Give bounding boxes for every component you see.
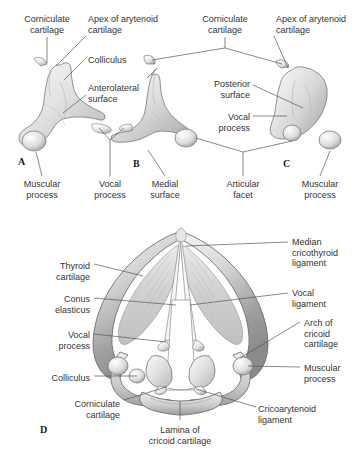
label-vocal-process-c: Vocal process xyxy=(218,112,250,133)
panel-letter-b: B xyxy=(133,158,140,169)
panel-letter-c: C xyxy=(283,158,290,169)
label-conus-elasticus-d: Conus elasticus xyxy=(55,294,90,315)
label-lamina-cricoid-d: Lamina of cricoid cartilage xyxy=(149,425,212,446)
label-vocal-process-d: Vocal process xyxy=(58,330,90,351)
label-anterolateral-surface-a: Anterolateral surface xyxy=(88,83,139,104)
label-corniculate-cartilage-a: Corniculate cartilage xyxy=(24,14,70,35)
label-muscular-process-a: Muscular process xyxy=(24,179,61,200)
label-median-cricothyroid-d: Median cricothyroid ligament xyxy=(292,237,338,269)
label-medial-surface-b: Medial surface xyxy=(150,179,180,200)
label-colliculus-a: Colliculus xyxy=(88,55,127,66)
label-corniculate-cartilage-c: Corniculate cartilage xyxy=(202,14,248,35)
panel-letter-d: D xyxy=(40,424,47,435)
anatomical-illustration xyxy=(0,0,361,453)
label-thyroid-cartilage-d: Thyroid cartilage xyxy=(56,261,90,282)
label-colliculus-d: Colliculus xyxy=(51,373,90,384)
label-vocal-process-a: Vocal process xyxy=(94,179,126,200)
arytenoid-cartilage-a xyxy=(19,57,111,151)
label-apex-arytenoid-c: Apex of arytenoid cartilage xyxy=(276,14,346,35)
panel-letter-a: A xyxy=(18,156,25,167)
label-arch-cricoid-d: Arch of cricoid cartilage xyxy=(304,318,338,350)
label-corniculate-cartilage-d: Corniculate cartilage xyxy=(74,399,120,420)
label-articular-facet: Articular facet xyxy=(226,179,259,200)
label-cricoarytenoid-ligament-d: Cricoarytenoid ligament xyxy=(258,404,316,425)
laryngeal-skeleton-d xyxy=(93,228,268,415)
arytenoid-cartilage-c xyxy=(270,60,341,150)
label-vocal-ligament-d: Vocal ligament xyxy=(292,288,326,309)
label-muscular-process-c: Muscular process xyxy=(302,179,339,200)
label-posterior-surface-c: Posterior surface xyxy=(214,79,250,100)
label-muscular-process-d: Muscular process xyxy=(304,363,341,384)
label-apex-arytenoid-a: Apex of arytenoid cartilage xyxy=(88,14,158,35)
